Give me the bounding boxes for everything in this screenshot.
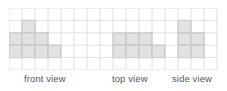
shaded-cell-front-view: [22, 45, 35, 57]
shaded-cell-front-view: [22, 20, 35, 32]
shaded-cell-top-view: [139, 45, 152, 57]
shaded-cell-top-view: [126, 33, 139, 45]
shaded-cell-top-view: [152, 45, 165, 57]
shaded-cell-side-view: [178, 33, 191, 45]
shaded-cell-front-view: [9, 33, 22, 45]
label-side-view: side view: [172, 72, 212, 85]
shaded-cell-front-view: [22, 33, 35, 45]
label-front-view: front view: [24, 72, 66, 85]
shaded-cell-top-view: [126, 45, 139, 57]
shaded-cell-top-view: [139, 33, 152, 45]
shaded-cell-front-view: [35, 45, 48, 57]
shaded-cells-layer: [9, 20, 204, 57]
orthographic-views-figure: front view top view side view: [0, 0, 227, 91]
shaded-cell-front-view: [9, 45, 22, 57]
grid-canvas: [9, 8, 218, 70]
shaded-cell-front-view: [48, 45, 61, 57]
shaded-cell-side-view: [178, 20, 191, 32]
view-labels: front view top view side view: [0, 72, 227, 87]
shaded-cell-top-view: [113, 33, 126, 45]
label-top-view: top view: [112, 72, 148, 85]
shaded-cell-front-view: [35, 33, 48, 45]
grid-container: [9, 8, 218, 70]
shaded-cell-top-view: [113, 45, 126, 57]
shaded-cell-side-view: [191, 45, 204, 57]
shaded-cell-side-view: [178, 45, 191, 57]
shaded-cell-side-view: [191, 33, 204, 45]
